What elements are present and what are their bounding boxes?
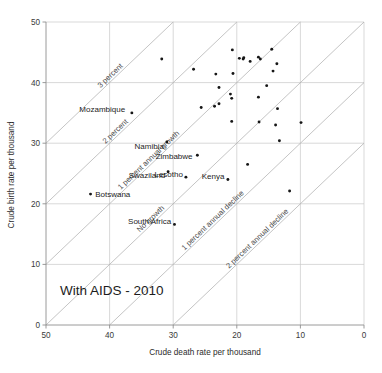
reference-label-three-percent: 3 percent [96, 61, 126, 90]
x-tick-label: 20 [232, 331, 242, 340]
data-point [249, 60, 252, 63]
data-point [270, 48, 273, 51]
data-point [230, 97, 233, 100]
x-tick-label: 10 [296, 331, 306, 340]
y-tick-label: 10 [31, 260, 41, 269]
x-tick-label: 30 [169, 331, 179, 340]
data-point [288, 190, 291, 193]
point-label-zimbabwe: Zimbabwe [156, 152, 193, 161]
x-tick-label: 0 [362, 331, 367, 340]
y-tick-label: 0 [35, 321, 40, 330]
data-point [200, 106, 203, 109]
chart-container: No growth1 percent annual growth2 percen… [0, 0, 382, 373]
data-point-lesotho [184, 176, 187, 179]
data-point-namibia [165, 141, 168, 144]
data-point [242, 56, 245, 59]
data-point-botswana [89, 193, 92, 196]
x-axis-title: Crude death rate per thousand [149, 348, 261, 357]
point-label-kenya: Kenya [202, 172, 225, 181]
point-label-mozambique: Mozambique [79, 105, 125, 114]
data-point [259, 58, 262, 61]
data-point [276, 107, 279, 110]
data-point [258, 121, 261, 124]
data-point [218, 102, 221, 105]
data-point [160, 58, 163, 61]
data-point-south-africa [173, 223, 176, 226]
data-point-kenya [226, 178, 229, 181]
data-point [265, 84, 268, 87]
data-point [275, 62, 278, 65]
point-labels: MozambiqueNamibiaZimbabweSwazilandLesoth… [79, 105, 225, 226]
x-tick-label: 50 [41, 331, 51, 340]
reference-label-two-percent-decline: 2 percent annual decline [224, 207, 290, 271]
x-tick-label: 40 [105, 331, 115, 340]
data-point [213, 105, 216, 108]
data-point-mozambique [130, 111, 133, 114]
data-point [229, 93, 232, 96]
data-point [232, 72, 235, 75]
data-point [274, 124, 277, 127]
data-point [214, 73, 217, 76]
point-label-botswana: Botswana [95, 190, 131, 199]
data-point [192, 68, 195, 71]
reference-label-one-percent-decline: 1 percent annual decline [180, 189, 246, 253]
data-point [272, 70, 275, 73]
y-axis-title: Crude birth rate per thousand [7, 121, 16, 228]
data-point-zimbabwe [196, 154, 199, 157]
data-point [230, 120, 233, 123]
reference-label-two-percent: 2 percent [101, 117, 131, 146]
data-point [257, 96, 260, 99]
y-tick-label: 40 [31, 79, 41, 88]
y-tick-label: 50 [31, 18, 41, 27]
y-tick-label: 20 [31, 200, 41, 209]
data-point [231, 48, 234, 51]
data-point [300, 121, 303, 124]
data-point [278, 139, 281, 142]
plot-title: With AIDS - 2010 [60, 283, 164, 298]
point-label-namibia: Namibia [135, 142, 165, 151]
data-point [238, 57, 241, 60]
point-label-south-africa: South Africa [128, 217, 172, 226]
data-point [246, 163, 249, 166]
point-label-lesotho: Lesotho [154, 170, 183, 179]
scatter-plot: No growth1 percent annual growth2 percen… [0, 0, 382, 373]
data-point [218, 86, 221, 89]
y-tick-label: 30 [31, 139, 41, 148]
